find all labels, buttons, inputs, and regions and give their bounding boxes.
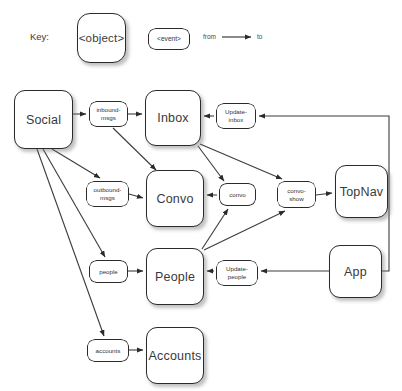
object-node-topnav[interactable]: TopNav — [335, 165, 388, 218]
object-node-label: Social — [26, 113, 61, 127]
event-node-convo-show[interactable]: convo- show — [277, 181, 316, 208]
event-node-label: convo — [229, 191, 246, 199]
event-node-label: outbound- msgs — [94, 186, 122, 202]
edge-outbound-msgs-convo — [129, 194, 143, 198]
object-node-label: TopNav — [340, 185, 384, 199]
event-node-update-people[interactable]: Update- people — [216, 260, 258, 286]
event-node-inbound-msgs[interactable]: inbound- msgs — [89, 101, 128, 127]
legend-event-sample-label: <event> — [157, 35, 181, 43]
event-node-label: inbound- msgs — [96, 106, 120, 122]
event-node-accounts-ev[interactable]: accounts — [87, 339, 129, 362]
object-node-people[interactable]: People — [146, 248, 204, 305]
object-node-app[interactable]: App — [329, 245, 382, 298]
edge-social-outbound-msgs — [52, 149, 100, 178]
event-node-label: convo- show — [287, 187, 306, 203]
event-node-label: Update- people — [226, 265, 248, 281]
event-node-convo-ev[interactable]: convo — [219, 183, 256, 206]
legend-object-sample: <object> — [77, 13, 126, 63]
object-node-label: Convo — [156, 192, 193, 206]
object-node-social[interactable]: Social — [14, 90, 73, 149]
event-node-label: accounts — [96, 347, 121, 355]
edge-people-convo-event — [202, 209, 228, 249]
object-node-label: Accounts — [148, 349, 201, 363]
event-node-people-ev[interactable]: people — [89, 260, 128, 283]
object-node-accounts[interactable]: Accounts — [146, 327, 204, 384]
legend-from-label: from — [203, 33, 216, 40]
edge-people-convo-show — [204, 211, 285, 250]
object-node-label: Inbox — [157, 111, 189, 125]
object-node-convo[interactable]: Convo — [146, 170, 204, 227]
object-node-inbox[interactable]: Inbox — [145, 90, 201, 146]
event-node-outbound-msgs[interactable]: outbound- msgs — [86, 181, 129, 207]
edge-inbox-convo-show — [200, 144, 282, 179]
event-node-label: Update- inbox — [225, 108, 247, 124]
legend-object-sample-label: <object> — [79, 32, 125, 44]
legend-event-sample: <event> — [148, 28, 190, 50]
legend-to-label: to — [257, 33, 262, 40]
edge-social-accounts-event — [37, 149, 104, 336]
legend-key-label: Key: — [30, 31, 49, 42]
object-node-label: People — [155, 270, 195, 284]
object-node-label: App — [344, 265, 367, 279]
event-node-label: people — [99, 268, 118, 276]
edge-convo-show-topnav — [316, 193, 332, 195]
event-node-update-inbox[interactable]: Update- inbox — [216, 103, 256, 129]
diagram-canvas: Key: <object> <event> from to SocialInbo… — [0, 0, 402, 391]
